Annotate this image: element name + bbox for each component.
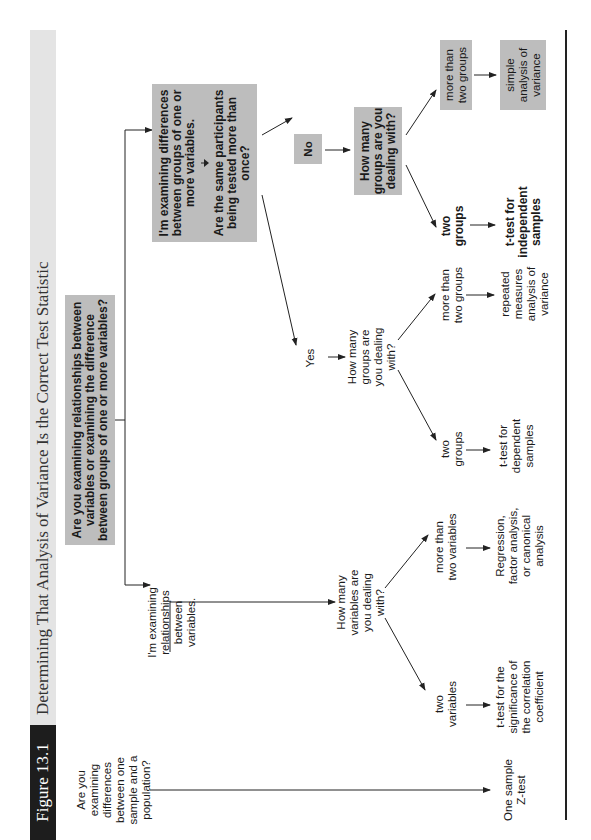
root-question-box: Are you examining relationships between … — [65, 295, 115, 545]
two-groups-dependent-option: two groups — [438, 428, 466, 470]
how-many-groups-question-yes: How many groups are you dealing with? — [350, 326, 394, 388]
differences-statement: I'm examining differences between groups… — [158, 84, 197, 242]
more-than-two-variables-option: more than two variables — [430, 512, 462, 582]
yes-label: Yes — [298, 338, 322, 378]
how-many-groups-question-no: How many groups are you dealing with? — [354, 107, 402, 195]
relationships-statement: I'm examining relationships between vari… — [152, 585, 192, 660]
repeated-measures-anova-result: repeated measures analysis of variance — [498, 263, 552, 325]
t-test-independent-result: t-test for independent samples — [500, 192, 546, 252]
two-groups-independent-option: two groups — [438, 204, 468, 248]
no-box: No — [294, 134, 322, 164]
t-test-correlation-result: t-test for the significance of the corre… — [494, 652, 546, 742]
differences-box: I'm examining differences between groups… — [152, 84, 257, 242]
arrow-down-icon — [201, 148, 209, 178]
more-than-two-groups-dependent-option: more than two groups — [438, 265, 466, 325]
t-test-dependent-result: t-test for dependent samples — [494, 417, 538, 475]
bottom-rule — [565, 30, 567, 820]
flowchart-stage: Figure 13.1 Determining That Analysis of… — [0, 0, 591, 840]
same-participants-question: Are the same participants being tested m… — [213, 84, 252, 242]
two-variables-option: two variables — [430, 680, 462, 728]
how-many-variables-question: How many variables are you dealing with? — [340, 560, 382, 645]
more-than-two-groups-independent-box: more than two groups — [440, 40, 472, 110]
one-sample-question: Are you examining differences between on… — [80, 745, 148, 835]
simple-anova-box: simple analysis of variance — [500, 40, 546, 110]
one-sample-z-test: One sample Z-test — [495, 755, 535, 825]
regression-result: Regression, factor analysis, or canonica… — [494, 502, 546, 590]
